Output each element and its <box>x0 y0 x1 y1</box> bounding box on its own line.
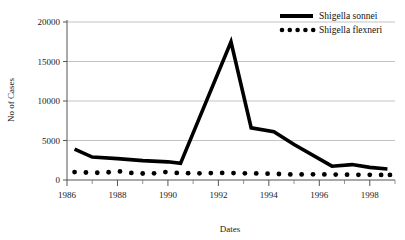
x-tick-label: 1988 <box>108 190 127 200</box>
flexneri-point <box>231 171 236 176</box>
x-tick-label: 1990 <box>159 190 178 200</box>
legend-label: Shigella sonnei <box>319 11 378 21</box>
x-tick-label: 1986 <box>58 190 77 200</box>
flexneri-point <box>140 171 145 176</box>
x-tick-label: 1998 <box>361 190 380 200</box>
flexneri-point <box>242 171 247 176</box>
flexneri-point <box>322 172 327 177</box>
y-tick-labels: 05000100001500020000 <box>38 17 61 185</box>
flexneri-point <box>367 172 372 177</box>
y-tick-label: 0 <box>56 175 61 185</box>
y-tick-label: 15000 <box>38 57 61 67</box>
flexneri-point <box>174 170 179 175</box>
y-tick-label: 5000 <box>42 136 61 146</box>
line-chart: 05000100001500020000 1986198819901992199… <box>0 0 405 240</box>
y-tick-label: 20000 <box>38 17 61 27</box>
y-axis-title: No of Cases <box>6 78 16 122</box>
flexneri-point <box>299 172 304 177</box>
flexneri-point <box>379 173 384 178</box>
y-tick-label: 10000 <box>38 96 61 106</box>
series-shigella-sonnei <box>75 42 388 169</box>
x-axis <box>67 180 395 186</box>
legend-swatch-flexneri <box>311 28 316 33</box>
legend-swatch-flexneri <box>280 28 285 33</box>
y-axis <box>63 20 67 180</box>
legend-swatch-flexneri <box>295 28 300 33</box>
series-shigella-flexneri <box>72 169 392 177</box>
flexneri-point <box>333 172 338 177</box>
flexneri-point <box>129 170 134 175</box>
flexneri-point <box>356 172 361 177</box>
flexneri-point <box>265 171 270 176</box>
chart-figure: 05000100001500020000 1986198819901992199… <box>0 0 405 240</box>
x-tick-labels: 1986198819901992199419961998 <box>58 190 379 200</box>
flexneri-point <box>163 170 168 175</box>
legend-swatch-flexneri <box>303 28 308 33</box>
flexneri-point <box>106 170 111 175</box>
sonnei-line <box>75 42 388 169</box>
flexneri-point <box>208 171 213 176</box>
flexneri-point <box>311 172 316 177</box>
flexneri-point <box>197 171 202 176</box>
flexneri-point <box>72 170 77 175</box>
x-tick-label: 1996 <box>310 190 329 200</box>
chart-legend: Shigella sonneiShigella flexneri <box>280 11 383 35</box>
legend-swatch-flexneri <box>288 28 293 33</box>
flexneri-point <box>388 173 393 178</box>
x-tick-label: 1992 <box>209 190 227 200</box>
flexneri-point <box>186 171 191 176</box>
flexneri-point <box>118 169 123 174</box>
flexneri-point <box>277 172 282 177</box>
flexneri-point <box>152 171 157 176</box>
flexneri-point <box>254 171 259 176</box>
flexneri-point <box>220 170 225 175</box>
flexneri-point <box>288 172 293 177</box>
legend-label: Shigella flexneri <box>319 25 382 35</box>
flexneri-point <box>95 170 100 175</box>
flexneri-point <box>84 170 89 175</box>
flexneri-point <box>345 172 350 177</box>
x-tick-label: 1994 <box>260 190 279 200</box>
x-axis-title: Dates <box>220 224 241 234</box>
